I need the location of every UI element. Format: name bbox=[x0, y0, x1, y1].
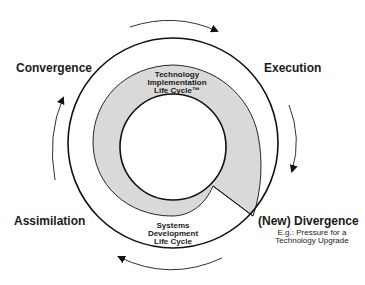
divergence-note-line2: Technology Upgrade bbox=[275, 236, 349, 245]
arrow-top bbox=[130, 20, 217, 31]
arrow-bottom bbox=[119, 257, 222, 270]
label-convergence: Convergence bbox=[16, 61, 92, 75]
cycle-diagram: Convergence Execution (New) Divergence A… bbox=[0, 0, 365, 285]
inner-circle bbox=[120, 94, 226, 200]
arrow-left bbox=[52, 98, 63, 180]
label-assimilation: Assimilation bbox=[14, 214, 85, 228]
tilc-label-line3: Life Cycle™ bbox=[154, 86, 200, 95]
label-execution: Execution bbox=[264, 61, 321, 75]
arrow-right bbox=[289, 105, 296, 171]
label-divergence: (New) Divergence bbox=[258, 214, 359, 228]
sdlc-label-line3: Life Cycle bbox=[154, 237, 192, 246]
